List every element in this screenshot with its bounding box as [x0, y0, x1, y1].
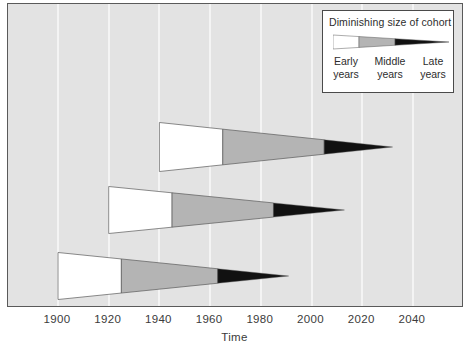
cohort-wedge-segment: [223, 129, 324, 165]
cohort-wedge-segment: [324, 140, 392, 154]
x-tick-label: 1940: [145, 313, 172, 325]
legend-wedge-segment: [395, 39, 449, 46]
x-tick-label: 2040: [398, 313, 425, 325]
x-tick-label: 1980: [246, 313, 273, 325]
legend-label-middle-line2: years: [367, 68, 413, 81]
cohort-wedge-segment: [159, 123, 222, 172]
legend-label-late-line2: years: [413, 68, 453, 81]
cohort-diminishing-size-chart: 19001920194019601980200020202040 Time Di…: [0, 0, 469, 348]
cohort-wedge-segment: [218, 269, 289, 283]
x-tick-label: 1920: [94, 313, 121, 325]
legend-label-early-line2: years: [325, 68, 367, 81]
cohort-wedge-segment: [273, 203, 344, 217]
cohort-wedge-segment: [121, 259, 217, 293]
cohort-wedge-segment: [109, 187, 172, 234]
legend: Diminishing size of cohort Early years M…: [322, 10, 454, 93]
legend-label-early: Early years: [325, 55, 367, 80]
legend-wedge-segment: [333, 35, 359, 49]
legend-label-late: Late years: [413, 55, 453, 80]
legend-label-middle-line1: Middle: [367, 55, 413, 68]
legend-wedge-segment: [359, 37, 395, 48]
x-tick-label: 2020: [348, 313, 375, 325]
legend-label-middle: Middle years: [367, 55, 413, 80]
legend-label-early-line1: Early: [325, 55, 367, 68]
x-axis-title: Time: [0, 331, 469, 343]
cohort-wedge-segment: [58, 253, 121, 300]
cohort-wedge-segment: [172, 193, 273, 227]
x-tick-label: 2000: [297, 313, 324, 325]
x-tick-label: 1960: [196, 313, 223, 325]
x-tick-label: 1900: [44, 313, 71, 325]
legend-label-late-line1: Late: [413, 55, 453, 68]
legend-title: Diminishing size of cohort: [329, 16, 451, 28]
legend-wedge-icon: [333, 33, 449, 51]
